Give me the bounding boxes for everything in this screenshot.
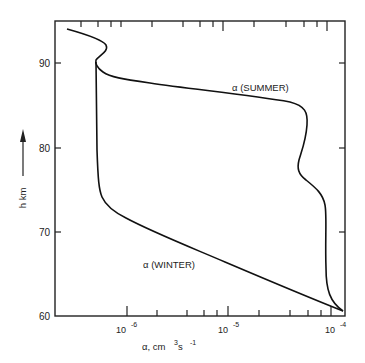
svg-text:s: s xyxy=(178,341,183,352)
svg-text:-6: -6 xyxy=(131,321,137,328)
svg-text:10: 10 xyxy=(116,325,126,335)
svg-text:-4: -4 xyxy=(340,321,346,328)
summer-label: α (SUMMER) xyxy=(232,82,289,93)
svg-text:h km: h km xyxy=(17,188,28,209)
svg-text:α, cm: α, cm xyxy=(142,341,166,352)
svg-text:-1: -1 xyxy=(190,339,196,346)
winter-label: α (WINTER) xyxy=(143,259,195,270)
x-tick-label-1e-4: 10 -4 xyxy=(325,321,346,335)
summer-curve xyxy=(67,29,343,311)
x-ticks-top xyxy=(81,21,327,31)
x-axis-title: α, cm 3 s -1 xyxy=(142,339,196,352)
winter-curve xyxy=(96,62,343,311)
x-ticks-bottom xyxy=(127,306,331,316)
svg-text:10: 10 xyxy=(325,325,335,335)
y-tick-label-70: 70 xyxy=(39,227,51,238)
up-arrow-icon xyxy=(20,129,26,142)
y-ticks xyxy=(55,63,345,232)
y-tick-label-60: 60 xyxy=(39,311,51,322)
x-tick-label-1e-5: 10 -5 xyxy=(218,321,239,335)
altitude-alpha-chart: 60 70 80 90 10 -6 10 -5 10 -4 α, cm 3 s … xyxy=(0,0,365,363)
svg-text:-5: -5 xyxy=(233,321,239,328)
y-axis-title: h km xyxy=(17,129,28,208)
x-tick-label-1e-6: 10 -6 xyxy=(116,321,137,335)
y-tick-label-90: 90 xyxy=(39,58,51,69)
y-tick-label-80: 80 xyxy=(39,143,51,154)
svg-text:10: 10 xyxy=(218,325,228,335)
